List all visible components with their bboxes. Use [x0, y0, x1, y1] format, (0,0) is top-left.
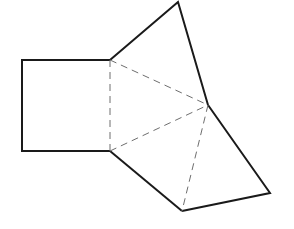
top-triangle-outer-edges	[110, 2, 208, 105]
square-face-outline	[22, 60, 110, 151]
fold-line-bottom-to-center	[110, 105, 208, 151]
solid-outline	[22, 2, 270, 211]
fold-lines	[110, 60, 208, 211]
net-diagram	[0, 0, 294, 229]
fold-line-top-to-center	[110, 60, 208, 105]
bottom-triangle-outer-edge	[110, 151, 182, 211]
fold-line-center-to-bottom	[182, 105, 208, 211]
